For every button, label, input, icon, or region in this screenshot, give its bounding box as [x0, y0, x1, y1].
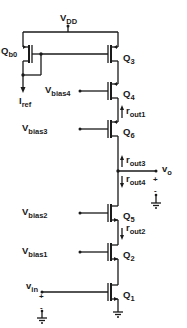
rout2-label: rout2	[126, 222, 146, 236]
q1-label: Q1	[123, 289, 135, 303]
vbias1-label: Vbias1	[22, 245, 48, 259]
vo-plus: +	[153, 175, 158, 184]
transistor-q3: Q3	[108, 32, 135, 84]
rout2-annotation: rout2	[120, 222, 146, 240]
vo-minus: -	[154, 186, 157, 195]
transistor-q2: Q2 Vbias1	[22, 243, 135, 285]
q2-label: Q2	[123, 249, 135, 263]
rout4-annotation: rout4	[120, 173, 146, 188]
rout1-label: rout1	[126, 105, 146, 119]
transistor-q1: Q1	[41, 283, 135, 317]
transistor-q6: Q6 Vbias3	[22, 120, 135, 206]
vdd-supply: VDD	[23, 12, 118, 32]
vdd-label: VDD	[60, 12, 78, 26]
q6-label: Q6	[123, 126, 135, 140]
vin-plus: +	[39, 292, 44, 301]
iref-label: Iref	[19, 95, 32, 109]
cascode-amplifier-schematic: VDD Qb0 Iref Q3	[0, 0, 187, 328]
qb0-label: Qb0	[1, 45, 17, 59]
vbias2-label: Vbias2	[22, 206, 48, 220]
vbias3-label: Vbias3	[22, 122, 48, 136]
iref-current: Iref	[19, 75, 32, 109]
rout3-label: rout3	[126, 154, 146, 168]
transistor-q5: Q5 Vbias2	[22, 204, 135, 245]
transistor-qb0: Qb0	[1, 32, 43, 77]
vin-label: vin	[26, 280, 38, 294]
rout3-annotation: rout3	[120, 154, 146, 168]
q3-label: Q3	[123, 52, 135, 66]
vo-label: vo	[162, 163, 172, 177]
q4-label: Q4	[123, 88, 135, 102]
input-source: vin + -	[26, 280, 47, 323]
rout4-label: rout4	[126, 173, 146, 187]
vbias4-label: Vbias4	[45, 84, 71, 98]
rout1-annotation: rout1	[120, 105, 146, 119]
